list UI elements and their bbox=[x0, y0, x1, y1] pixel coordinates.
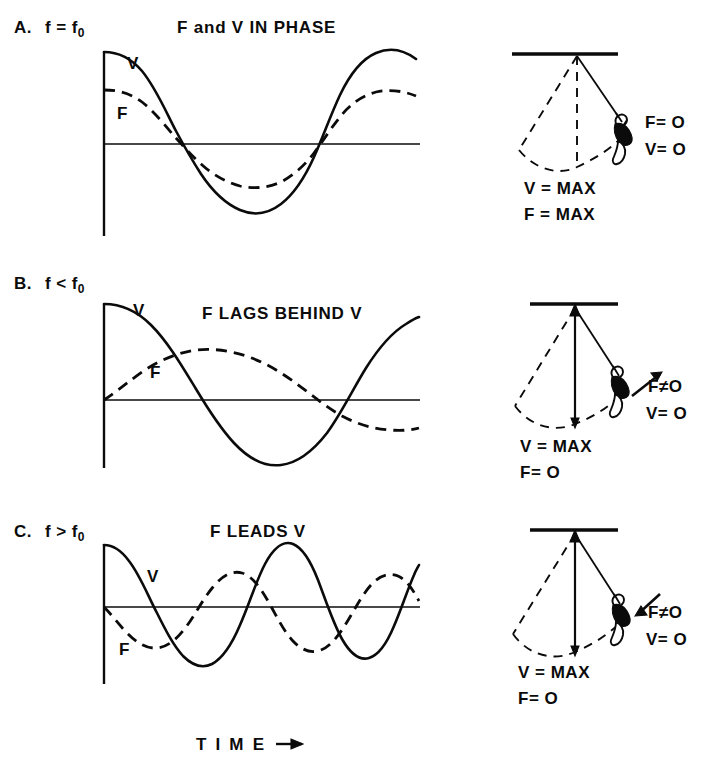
panel-b-bottom-label-1: F= O bbox=[520, 463, 560, 482]
panel-b-swinger-label-0: F≠O bbox=[648, 377, 682, 396]
panel-a-pendulum: F= O V= O V = MAX F = MAX bbox=[0, 0, 713, 256]
panel-b-pendulum: F≠O V= O V = MAX F= O bbox=[0, 256, 713, 512]
panel-c-swing-arc bbox=[513, 615, 627, 656]
panel-c-swinger-label-0: F≠O bbox=[648, 603, 682, 622]
panel-b-swing-arc bbox=[515, 388, 626, 428]
panel-a-swing-arc bbox=[519, 131, 627, 171]
panel-c: C. f > f0 F LEADS V V F T I M E bbox=[0, 512, 713, 769]
panel-a-swinger-label-0: F= O bbox=[645, 113, 685, 132]
panel-b-right-rope bbox=[575, 308, 619, 376]
panel-b-left-rope bbox=[515, 308, 575, 406]
panel-b-swinger-icon bbox=[610, 366, 629, 417]
panel-a: A. f = f0 F and V IN PHASE V F F= O bbox=[0, 0, 713, 256]
panel-c-pendulum: F≠O V= O V = MAX F= O bbox=[0, 512, 713, 769]
panel-c-bottom-label-0: V = MAX bbox=[518, 663, 590, 682]
panel-c-right-rope bbox=[575, 534, 620, 604]
panel-b-bottom-label-0: V = MAX bbox=[520, 437, 592, 456]
panel-c-swinger-icon bbox=[611, 594, 630, 645]
panel-a-swinger-label-1: V= O bbox=[645, 140, 686, 159]
panel-a-left-rope bbox=[519, 56, 577, 150]
panel-b: B. f < f0 F LAGS BEHIND V V F F≠O bbox=[0, 256, 713, 512]
panel-a-bottom-label-1: F = MAX bbox=[524, 205, 595, 224]
panel-a-swinger-icon bbox=[613, 113, 632, 164]
panel-a-right-rope bbox=[577, 56, 622, 122]
panel-c-left-rope bbox=[513, 534, 575, 634]
panel-b-swinger-label-1: V= O bbox=[646, 404, 687, 423]
panel-a-bottom-label-0: V = MAX bbox=[524, 179, 596, 198]
panel-c-swinger-label-1: V= O bbox=[646, 630, 687, 649]
panel-c-bottom-label-1: F= O bbox=[518, 689, 558, 708]
